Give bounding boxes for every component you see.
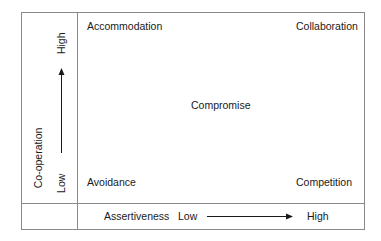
y-axis-arrow — [59, 68, 65, 153]
x-axis-arrow — [207, 214, 293, 220]
axis-arrows — [0, 0, 381, 241]
